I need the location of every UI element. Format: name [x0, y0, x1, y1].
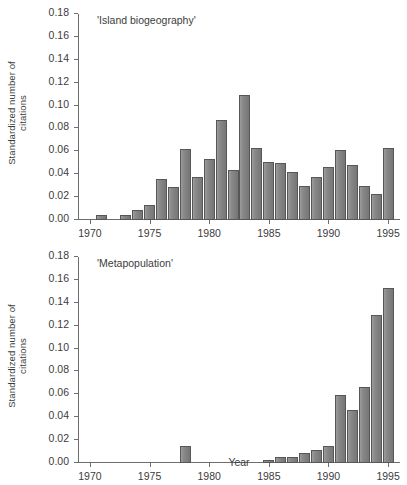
- y-axis-title-top: Standardized number of citations: [2, 8, 30, 218]
- y-tick-1-5: 0.10: [74, 348, 78, 349]
- y-tick-label-1-0: 0.00: [49, 455, 69, 468]
- bar: [144, 205, 155, 220]
- chart-panel-island-biogeography: Standardized number of citations 'Island…: [0, 0, 407, 243]
- x-tick-label-0-4: 1990: [317, 227, 340, 240]
- y-axis-line-top: [78, 14, 79, 220]
- bar: [359, 186, 370, 220]
- x-tick-label-0-3: 1985: [257, 227, 280, 240]
- y-tick-0-0: 0.00: [74, 219, 78, 220]
- bar: [359, 387, 370, 463]
- x-tick-label-0-0: 1970: [78, 227, 101, 240]
- y-tick-0-9: 0.18: [74, 13, 78, 14]
- bar: [239, 95, 250, 220]
- y-tick-0-6: 0.12: [74, 82, 78, 83]
- x-tick-0-1: [150, 220, 151, 224]
- y-tick-1-6: 0.12: [74, 325, 78, 326]
- y-tick-label-0-1: 0.02: [49, 189, 69, 202]
- series-title-top: 'Island biogeography': [97, 14, 196, 27]
- bar: [371, 194, 382, 220]
- y-tick-1-1: 0.02: [74, 439, 78, 440]
- y-tick-label-0-3: 0.06: [49, 143, 69, 156]
- y-tick-label-1-3: 0.06: [49, 386, 69, 399]
- x-axis-title: Year: [78, 456, 400, 468]
- y-tick-1-2: 0.04: [74, 416, 78, 417]
- y-tick-1-3: 0.06: [74, 393, 78, 394]
- y-axis-title-bottom: Standardized number of citations: [2, 251, 30, 461]
- y-tick-label-1-2: 0.04: [49, 409, 69, 422]
- y-tick-1-9: 0.18: [74, 256, 78, 257]
- y-tick-label-1-1: 0.02: [49, 432, 69, 445]
- bar: [335, 395, 346, 463]
- x-tick-label-0-2: 1980: [197, 227, 220, 240]
- y-tick-label-0-2: 0.04: [49, 166, 69, 179]
- bar: [275, 163, 286, 220]
- y-tick-label-0-0: 0.00: [49, 212, 69, 225]
- y-tick-label-0-6: 0.12: [49, 75, 69, 88]
- bar: [335, 150, 346, 220]
- bar: [287, 172, 298, 220]
- y-tick-0-2: 0.04: [74, 173, 78, 174]
- y-tick-label-0-7: 0.14: [49, 52, 69, 65]
- bar: [228, 170, 239, 220]
- y-tick-label-1-6: 0.12: [49, 318, 69, 331]
- y-tick-label-1-9: 0.18: [49, 249, 69, 262]
- x-tick-0-4: [328, 220, 329, 224]
- x-tick-label-1-2: 1980: [197, 470, 220, 483]
- y-tick-label-1-8: 0.16: [49, 272, 69, 285]
- y-tick-1-4: 0.08: [74, 370, 78, 371]
- bar: [96, 215, 107, 220]
- bar: [263, 162, 274, 220]
- bar: [120, 215, 131, 220]
- bar: [371, 315, 382, 463]
- bar: [323, 167, 334, 220]
- bar: [251, 148, 262, 220]
- chart-panel-metapopulation: Standardized number of citations 'Metapo…: [0, 243, 407, 485]
- x-tick-label-0-1: 1975: [138, 227, 161, 240]
- bar: [204, 159, 215, 220]
- y-tick-label-0-9: 0.18: [49, 6, 69, 19]
- x-tick-label-1-3: 1985: [257, 470, 280, 483]
- bar: [383, 288, 394, 463]
- x-tick-label-1-4: 1990: [317, 470, 340, 483]
- y-tick-label-1-7: 0.14: [49, 295, 69, 308]
- y-tick-0-1: 0.02: [74, 196, 78, 197]
- y-tick-label-0-8: 0.16: [49, 29, 69, 42]
- y-tick-1-7: 0.14: [74, 302, 78, 303]
- plot-area-bottom: 'Metapopulation' 0.000.020.040.060.080.1…: [78, 257, 400, 463]
- x-tick-label-0-5: 1995: [376, 227, 399, 240]
- bar: [347, 165, 358, 220]
- x-tick-label-1-1: 1975: [138, 470, 161, 483]
- y-tick-label-1-5: 0.10: [49, 341, 69, 354]
- y-tick-label-0-5: 0.10: [49, 98, 69, 111]
- y-axis-title-bottom-text: Standardized number of citations: [6, 256, 20, 456]
- y-tick-label-0-4: 0.08: [49, 120, 69, 133]
- y-tick-0-5: 0.10: [74, 105, 78, 106]
- x-tick-0-5: [388, 220, 389, 224]
- bar: [192, 177, 203, 220]
- x-tick-0-3: [269, 220, 270, 224]
- y-tick-0-8: 0.16: [74, 36, 78, 37]
- y-axis-title-top-text: Standardized number of citations: [6, 13, 20, 213]
- x-tick-label-1-5: 1995: [376, 470, 399, 483]
- x-tick-0-2: [209, 220, 210, 224]
- y-tick-0-7: 0.14: [74, 59, 78, 60]
- x-tick-label-1-0: 1970: [78, 470, 101, 483]
- y-axis-line-bottom: [78, 257, 79, 463]
- plot-area-top: 'Island biogeography' 0.000.020.040.060.…: [78, 14, 400, 220]
- series-title-bottom: 'Metapopulation': [97, 257, 173, 270]
- bar: [132, 210, 143, 220]
- bar: [311, 177, 322, 220]
- y-tick-0-3: 0.06: [74, 150, 78, 151]
- bar: [299, 186, 310, 220]
- bar: [168, 187, 179, 220]
- y-tick-0-4: 0.08: [74, 127, 78, 128]
- y-tick-1-8: 0.16: [74, 279, 78, 280]
- bar: [180, 149, 191, 220]
- x-tick-0-0: [90, 220, 91, 224]
- bar: [156, 179, 167, 220]
- bar: [383, 148, 394, 220]
- y-tick-label-1-4: 0.08: [49, 363, 69, 376]
- bar: [216, 120, 227, 220]
